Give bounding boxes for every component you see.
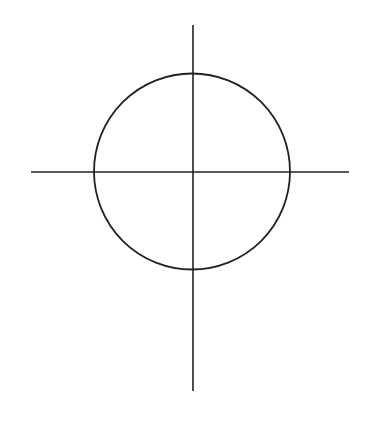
crosshair-circle-diagram bbox=[0, 0, 368, 422]
